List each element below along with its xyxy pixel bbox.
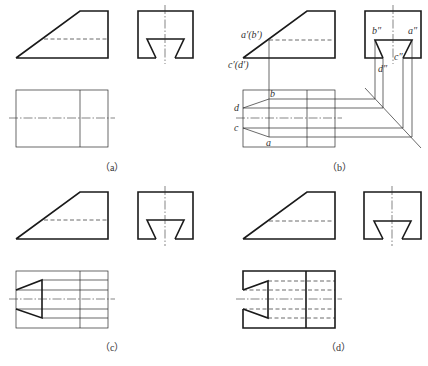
- projection-line: [243, 99, 269, 108]
- dovetail-slot: [147, 39, 184, 58]
- top-view: [9, 90, 115, 147]
- visible-edge: [243, 281, 268, 318]
- top-view: [236, 271, 342, 328]
- front-view: [243, 192, 335, 239]
- top-view: [9, 271, 115, 328]
- point-label: d: [234, 102, 240, 113]
- point-label: b″: [372, 25, 382, 36]
- panel-d: （d）: [236, 186, 421, 353]
- point-label: d″: [378, 63, 388, 74]
- projection-line: [243, 128, 269, 137]
- top-view-outline: [243, 90, 335, 147]
- top-view-outline: [16, 90, 108, 147]
- projection-line: [365, 88, 421, 148]
- side-view: [138, 186, 193, 246]
- point-label: c: [234, 122, 239, 133]
- dovetail-slot: [374, 221, 411, 239]
- side-view-outline: [364, 192, 421, 239]
- front-view-outline: [243, 192, 335, 239]
- front-view: [16, 192, 108, 239]
- point-label: a″: [408, 25, 418, 36]
- panel-caption: （c）: [100, 342, 124, 353]
- front-view: [16, 11, 108, 58]
- panel-caption: （a）: [100, 162, 124, 173]
- orthographic-projection-diagram: （a）a′(b′)c′(d′)b″a″d″c″bdca（b）（c）（d）: [0, 0, 428, 366]
- side-view-outline: [138, 192, 193, 239]
- side-view: [364, 186, 421, 246]
- visible-edge: [243, 271, 335, 328]
- side-view-outline: [138, 11, 193, 58]
- front-view-outline: [16, 192, 108, 239]
- panel-b: a′(b′)c′(d′)b″a″d″c″bdca（b）: [228, 5, 421, 173]
- panel-c: （c）: [9, 186, 193, 353]
- point-label: c′(d′): [228, 59, 249, 71]
- point-label: a′(b′): [241, 29, 263, 41]
- top-view-outline: [16, 271, 108, 328]
- panel-caption: （d）: [326, 342, 351, 353]
- panel-a: （a）: [9, 5, 193, 173]
- front-view-outline: [16, 11, 108, 58]
- point-label: a: [266, 137, 271, 148]
- panel-caption: （b）: [327, 162, 352, 173]
- dovetail-slot: [147, 220, 184, 239]
- side-view: [138, 5, 193, 64]
- point-label: b: [270, 88, 275, 99]
- point-label: c″: [394, 51, 403, 62]
